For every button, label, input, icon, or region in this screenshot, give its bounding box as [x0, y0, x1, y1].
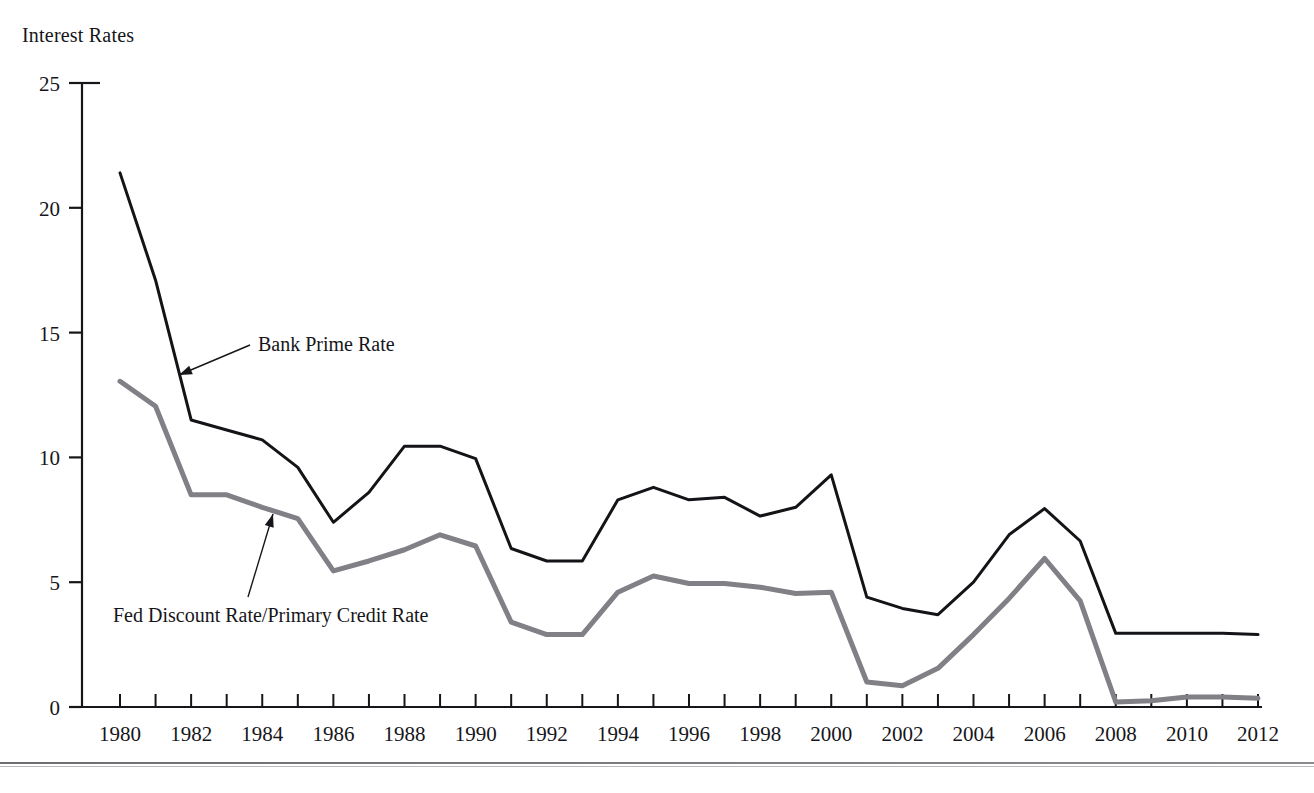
- x-tick-label: 1992: [526, 722, 568, 746]
- x-tick-label: 2008: [1095, 722, 1137, 746]
- footer-rule: [0, 762, 1314, 764]
- x-tick-label: 1982: [170, 722, 212, 746]
- x-tick-label: 1990: [455, 722, 497, 746]
- x-tick-label: 2006: [1024, 722, 1066, 746]
- series-line-bank-prime-rate: [120, 173, 1258, 635]
- annotation-arrow-head: [265, 514, 274, 528]
- annotation-label: Fed Discount Rate/Primary Credit Rate: [113, 604, 429, 627]
- interest-rates-figure: Interest Rates 0510152025 19801982198419…: [0, 0, 1314, 793]
- chart-annotations: Bank Prime RateFed Discount Rate/Primary…: [113, 333, 429, 627]
- x-tick-label: 2002: [881, 722, 923, 746]
- x-tick-label: 1994: [597, 722, 640, 746]
- x-tick-label: 1988: [384, 722, 426, 746]
- y-tick-label: 15: [39, 322, 60, 346]
- annotation-arrow-head: [179, 366, 193, 375]
- x-tick-label: 1998: [739, 722, 781, 746]
- y-tick-label: 20: [39, 197, 60, 221]
- y-tick-label: 25: [39, 72, 60, 96]
- y-tick-label: 5: [50, 571, 61, 595]
- y-tick-label: 10: [39, 446, 60, 470]
- y-axis-tick-labels: 0510152025: [39, 72, 60, 720]
- x-tick-label: 1986: [312, 722, 354, 746]
- x-tick-label: 2000: [810, 722, 852, 746]
- x-tick-label: 2004: [953, 722, 996, 746]
- annotation-label: Bank Prime Rate: [258, 333, 395, 355]
- footer-rule-secondary: [0, 766, 1314, 767]
- x-tick-label: 2012: [1237, 722, 1279, 746]
- x-tick-label: 1996: [668, 722, 710, 746]
- y-tick-label: 0: [50, 696, 61, 720]
- x-tick-label: 2010: [1166, 722, 1208, 746]
- series-line-fed-discount-rate-primary-credit-rate: [120, 381, 1258, 702]
- x-tick-label: 1984: [241, 722, 284, 746]
- chart-plot-area: 0510152025 19801982198419861988199019921…: [0, 0, 1314, 760]
- x-axis-tick-labels: 1980198219841986198819901992199419961998…: [99, 722, 1279, 746]
- x-tick-label: 1980: [99, 722, 141, 746]
- annotation-arrow-line: [248, 514, 273, 597]
